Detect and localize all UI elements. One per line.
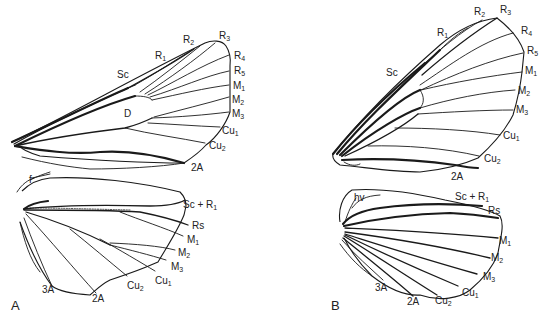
label-b-fw-m1: M1 [525,66,537,77]
label-a-fw-r2: R2 [183,35,194,46]
wing-venation-diagram [0,0,544,314]
label-b-fw-cu1: Cu1 [503,131,520,142]
label-b-fw-cu2: Cu2 [484,154,501,165]
panel-label-a: A [11,299,20,312]
label-b-hw-2a: 2A [407,297,419,307]
label-b-hw-humeral-vein: hv [354,193,365,203]
label-b-hw-3a: 3A [375,283,387,293]
label-a-hw-2a: 2A [92,294,104,304]
label-b-hw-m2: M2 [491,253,503,264]
label-a-hw-rs: Rs [192,221,204,231]
label-a-hw-cu1: Cu1 [155,276,172,287]
label-a-hw-3a: 3A [42,285,54,295]
label-a-fw-m3: M3 [232,109,244,120]
label-b-hw-sc-r1: Sc + R1 [455,192,489,203]
label-b-hw-cu1: Cu1 [462,288,479,299]
label-a-fw-r5: R5 [234,66,245,77]
panel-a-forewing [12,41,230,169]
panel-b-forewing [333,18,524,172]
label-b-fw-sc: Sc [386,68,398,78]
label-b-fw-m2: M2 [518,86,530,97]
label-a-hw-m1: M1 [187,235,199,246]
label-a-fw-cu2: Cu2 [209,141,226,152]
label-a-hw-frenulum: f [29,175,32,185]
label-a-fw-discal-cell: D [124,109,131,119]
label-b-hw-cu2: Cu2 [435,296,452,307]
label-a-hw-cu2: Cu2 [127,281,144,292]
label-a-hw-m3: M3 [171,262,183,273]
label-b-fw-m3: M3 [516,105,528,116]
label-a-fw-sc: Sc [117,70,129,80]
label-a-hw-m2: M2 [178,248,190,259]
label-a-fw-r4: R4 [234,51,245,62]
label-a-fw-2a: 2A [191,163,203,173]
label-b-fw-r3: R3 [500,5,511,16]
label-a-hw-sc-r1: Sc + R1 [183,200,217,211]
label-b-fw-r2: R2 [474,7,485,18]
label-b-fw-r5: R5 [527,46,538,57]
label-a-fw-m2: M2 [232,95,244,106]
label-b-hw-m3: M3 [483,272,495,283]
label-b-fw-r1: R1 [437,28,448,39]
panel-b-hindwing [340,189,503,298]
label-a-fw-m1: M1 [233,81,245,92]
label-b-hw-rs: Rs [488,206,500,216]
label-b-fw-2a: 2A [451,172,463,182]
label-a-fw-r1: R1 [155,51,166,62]
label-a-fw-cu1: Cu1 [222,126,239,137]
panel-label-b: B [331,299,340,312]
label-b-hw-m1: M1 [499,236,511,247]
label-a-fw-r3: R3 [219,31,230,42]
label-b-fw-r4: R4 [521,26,532,37]
